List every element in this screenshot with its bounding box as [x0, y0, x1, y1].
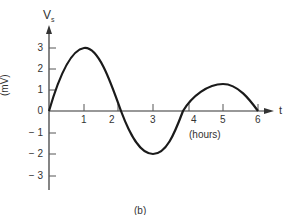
x-tick-label-2: 2 [109, 115, 115, 125]
y-tick-label-neg3: − 3 [21, 171, 43, 181]
x-tick-label-1: 1 [81, 115, 87, 125]
y-axis-symbol: Vs [43, 10, 55, 25]
x-ticks [84, 104, 258, 111]
figure-caption: (b) [134, 206, 146, 215]
y-tick-label-3: 3 [21, 43, 43, 53]
chart-plot [0, 0, 297, 215]
x-axis-symbol: t [279, 105, 282, 115]
y-tick-label-2: 2 [21, 64, 43, 74]
y-tick-label-neg1: − 1 [21, 128, 43, 138]
y-tick-label-neg2: − 2 [21, 149, 43, 159]
y-axis-arrow-icon [46, 25, 52, 34]
x-tick-label-5: 5 [220, 115, 226, 125]
y-tick-label-1: 1 [21, 85, 43, 95]
x-axis-unit-label: (hours) [189, 130, 221, 140]
x-tick-label-3: 3 [150, 115, 156, 125]
y-ticks [49, 48, 56, 176]
x-tick-label-4: 4 [191, 115, 197, 125]
vs-curve [49, 48, 258, 154]
y-tick-label-0: 0 [21, 106, 43, 116]
x-axis-arrow-icon [264, 108, 274, 114]
y-axis-unit-label: (mV) [0, 66, 10, 96]
x-tick-label-6: 6 [255, 115, 261, 125]
